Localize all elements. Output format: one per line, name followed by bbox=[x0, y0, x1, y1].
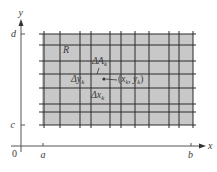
x-axis-label: x bbox=[207, 140, 213, 151]
tick-label-d: d bbox=[11, 28, 17, 39]
sample-point-dot bbox=[102, 77, 105, 80]
sample-point-label: (xk, yk) bbox=[118, 74, 143, 85]
delta-y-base: Δy bbox=[70, 73, 82, 84]
x-axis-arrow-icon bbox=[199, 144, 206, 149]
area-element-base: ΔA bbox=[91, 55, 105, 66]
region-label: R bbox=[62, 44, 69, 55]
paren-close: ) bbox=[140, 74, 143, 85]
y-axis-arrow-icon bbox=[19, 19, 24, 26]
origin-label: 0 bbox=[12, 148, 17, 159]
delta-x-base: Δx bbox=[90, 89, 102, 100]
y-axis-label: y bbox=[18, 7, 24, 18]
tick-label-c: c bbox=[11, 119, 16, 130]
tick-label-b: b bbox=[188, 149, 193, 160]
partition-diagram: y x 0 a b c d R ΔAk Δyk Δxk (xk, yk) bbox=[0, 0, 217, 172]
tick-label-a: a bbox=[41, 149, 46, 160]
